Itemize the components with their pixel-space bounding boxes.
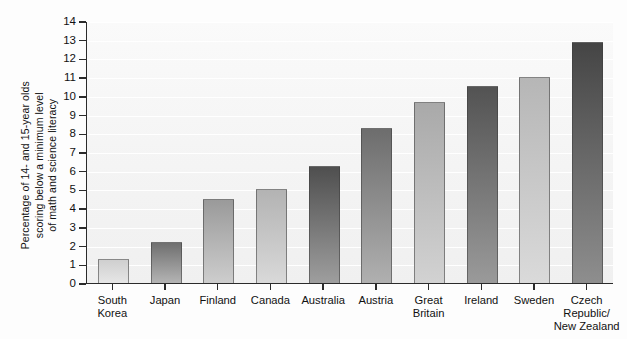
x-tick-mark (270, 284, 271, 290)
x-tick-mark (586, 284, 587, 290)
x-tick-mark (164, 284, 165, 290)
x-axis: South KoreaJapanFinlandCanadaAustraliaAu… (0, 0, 627, 339)
x-tick-mark (375, 284, 376, 290)
x-tick-mark (322, 284, 323, 290)
x-tick-mark (533, 284, 534, 290)
x-tick-mark (217, 284, 218, 290)
x-tick-label: Czech Republic/ New Zealand (552, 294, 621, 334)
x-tick-mark (112, 284, 113, 290)
x-tick-mark (428, 284, 429, 290)
x-tick-mark (481, 284, 482, 290)
bar-chart-figure: Percentage of 14- and 15-year olds scori… (0, 0, 627, 339)
